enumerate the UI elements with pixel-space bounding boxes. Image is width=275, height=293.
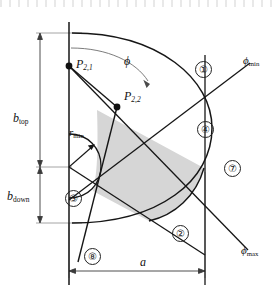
- label-a-base: a: [140, 255, 146, 269]
- callout-8: ⑧: [84, 248, 101, 265]
- callout-1: ①: [195, 61, 212, 78]
- callout-3: ③: [65, 190, 82, 207]
- label-phi-min-sub: min: [249, 60, 260, 67]
- label-b-down: bdown: [7, 190, 30, 203]
- callout-2: ②: [172, 225, 189, 242]
- dimension-b-top: [38, 33, 43, 167]
- label-r-min: rmin: [69, 127, 84, 140]
- workspace-diagram-figure: btop bdown rmin a ϕ ϕmin ϕmax P2,1 P2,2 …: [0, 0, 275, 293]
- label-p22: P2,2: [124, 90, 141, 103]
- callout-7: ⑦: [224, 160, 241, 177]
- point-p21-marker: [66, 63, 73, 70]
- label-phi-min: ϕmin: [243, 55, 259, 68]
- label-b-down-sub: down: [13, 195, 30, 204]
- label-phi-max-sub: max: [247, 250, 259, 257]
- label-p21: P2,1: [76, 58, 93, 71]
- label-b-top: btop: [13, 112, 29, 125]
- dimension-a: [69, 269, 205, 274]
- point-p22-marker: [114, 104, 121, 111]
- label-r-min-sub: min: [73, 132, 84, 139]
- label-a: a: [140, 256, 146, 268]
- segment-p21-p22: [69, 66, 117, 107]
- feasible-region-shaded: [93, 110, 204, 221]
- diagram-canvas: [0, 0, 275, 293]
- label-p21-sub: 2,1: [83, 63, 92, 72]
- r-min-radius-arrow: [69, 144, 95, 167]
- dimension-b-down: [38, 167, 43, 223]
- label-phi-max: ϕmax: [241, 245, 258, 258]
- label-phi: ϕ: [124, 55, 130, 67]
- label-phi-base: ϕ: [124, 54, 130, 68]
- label-p22-sub: 2,2: [131, 95, 140, 104]
- label-b-top-sub: top: [19, 117, 29, 126]
- callout-4: ④: [197, 121, 214, 138]
